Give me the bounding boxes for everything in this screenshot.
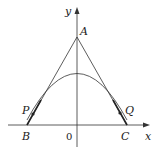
point-P-dot [31,112,34,115]
point-A-label: A [79,25,88,38]
point-B-label: B [21,130,30,143]
x-axis-arrow-icon [143,123,150,128]
point-Q-label: Q [125,104,134,117]
origin-label: 0 [66,131,72,142]
parabola-tangent-diagram: y x 0 A B C P Q [0,0,162,156]
x-axis-label: x [145,130,152,143]
point-C-label: C [121,130,130,143]
y-axis-arrow-icon [75,7,80,14]
point-P-label: P [21,104,30,117]
point-Q-dot [118,111,121,114]
y-axis-label: y [64,5,72,18]
